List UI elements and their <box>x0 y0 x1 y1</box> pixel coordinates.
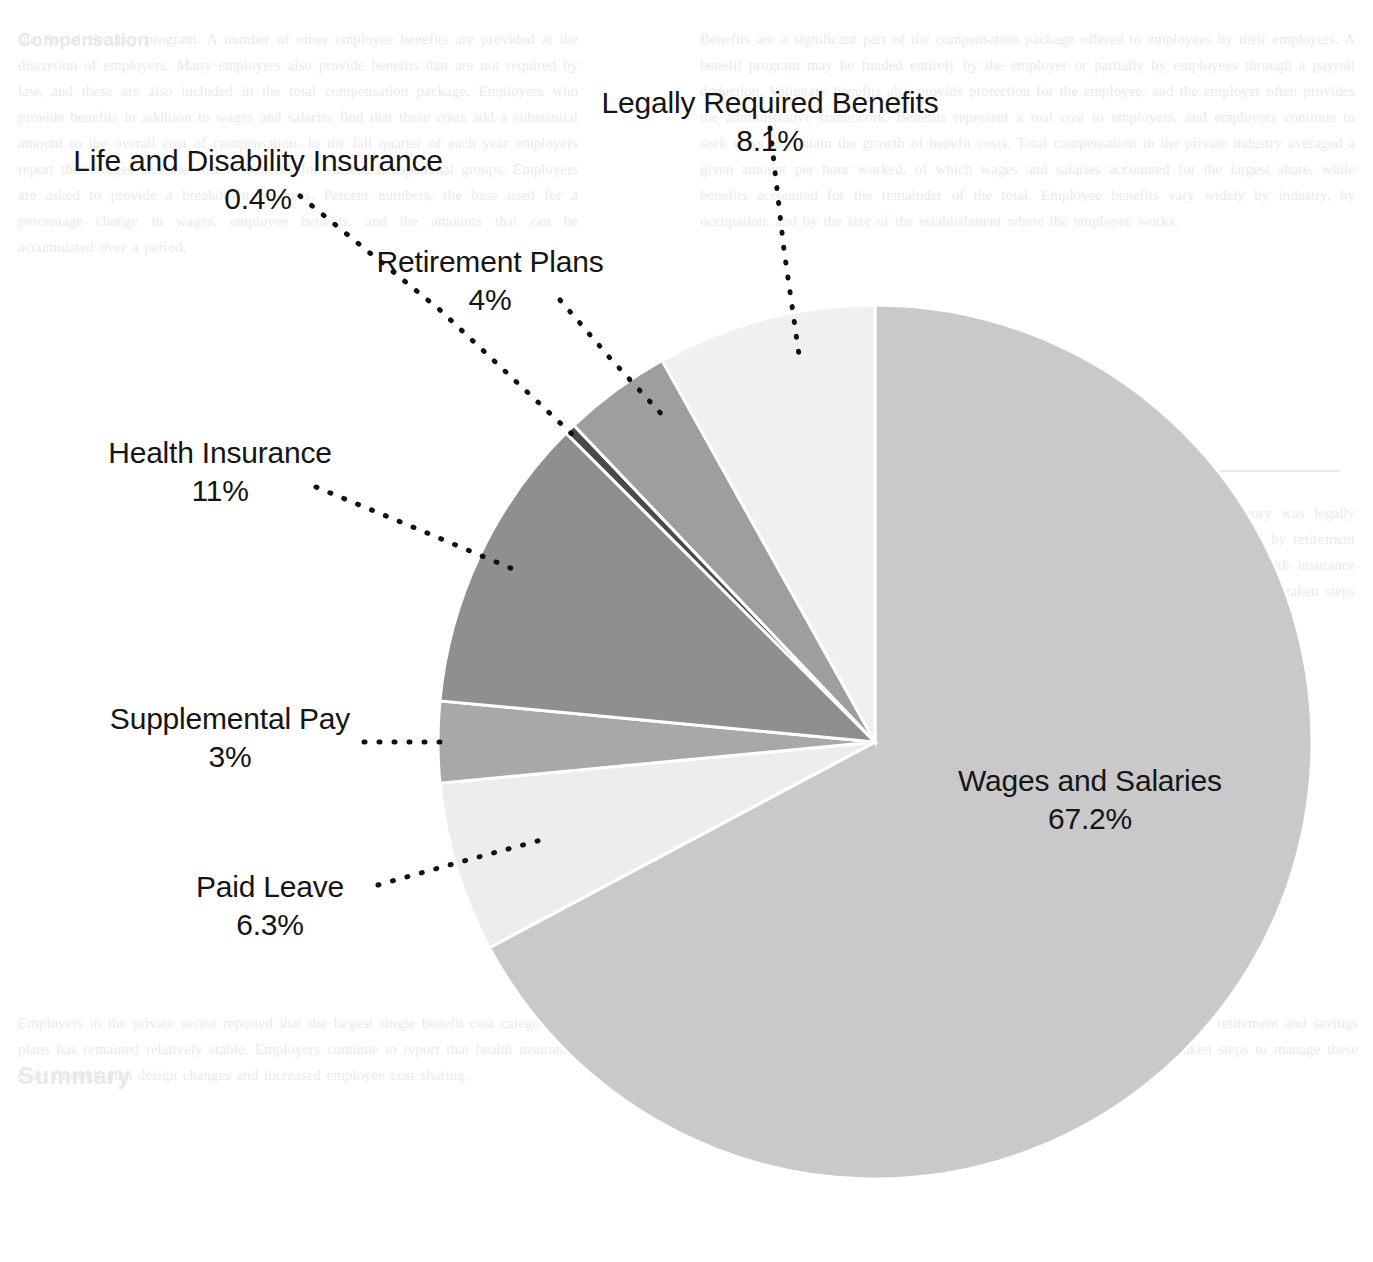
slice-label-retirement-plans: Retirement Plans 4% <box>300 243 680 319</box>
slice-label-name: Paid Leave <box>100 868 440 906</box>
slice-label-percent: 3% <box>30 738 430 776</box>
slice-label-health-insurance: Health Insurance 11% <box>30 434 410 510</box>
slice-label-legally-required-benefits: Legally Required Benefits 8.1% <box>540 84 1000 160</box>
slice-label-percent: 11% <box>30 472 410 510</box>
slice-label-name: Health Insurance <box>30 434 410 472</box>
slice-label-name: Legally Required Benefits <box>540 84 1000 122</box>
slice-label-name: Wages and Salaries <box>880 762 1300 800</box>
slice-label-supplemental-pay: Supplemental Pay 3% <box>30 700 430 776</box>
pie-slice-group <box>438 305 1312 1179</box>
slice-label-percent: 67.2% <box>880 800 1300 838</box>
slice-label-name: Retirement Plans <box>300 243 680 281</box>
slice-label-paid-leave: Paid Leave 6.3% <box>100 868 440 944</box>
slice-label-percent: 6.3% <box>100 906 440 944</box>
pie-chart: Legally Required Benefits 8.1% Life and … <box>0 0 1373 1262</box>
slice-label-percent: 8.1% <box>540 122 1000 160</box>
slice-label-percent: 0.4% <box>28 180 488 218</box>
slice-label-wages-and-salaries: Wages and Salaries 67.2% <box>880 762 1300 838</box>
slice-label-percent: 4% <box>300 281 680 319</box>
slice-label-life-and-disability-insurance: Life and Disability Insurance 0.4% <box>28 142 488 218</box>
slice-label-name: Supplemental Pay <box>30 700 430 738</box>
slice-label-name: Life and Disability Insurance <box>28 142 488 180</box>
